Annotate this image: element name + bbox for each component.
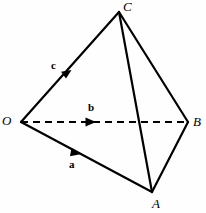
- vertex-label-O: O: [2, 114, 11, 127]
- edge-O-A: [21, 122, 152, 192]
- vector-a-arrowhead: [70, 148, 82, 156]
- vector-label-c: c: [51, 60, 56, 71]
- vertex-label-A: A: [152, 197, 160, 210]
- edge-A-B: [152, 122, 188, 192]
- vector-b-arrowhead: [86, 118, 97, 127]
- figure-canvas: C O B A c b a: [0, 0, 206, 213]
- tetrahedron-diagram-svg: [0, 0, 206, 213]
- edge-O-C: [21, 12, 119, 122]
- vector-label-a: a: [69, 159, 75, 170]
- vertex-label-C: C: [123, 0, 132, 13]
- vertex-label-B: B: [193, 115, 201, 128]
- vector-label-b: b: [88, 102, 94, 113]
